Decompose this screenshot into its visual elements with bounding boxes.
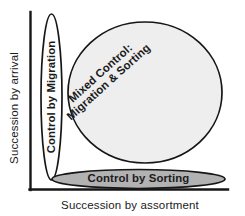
- region-label-control-by-sorting: Control by Sorting: [52, 172, 225, 184]
- region-label-control-by-migration: Control by Migration: [45, 14, 59, 180]
- x-axis-title: Succession by assortment: [30, 199, 230, 211]
- succession-control-diagram: Succession by arrival Succession by asso…: [0, 0, 245, 216]
- y-axis-title: Succession by arrival: [8, 0, 24, 216]
